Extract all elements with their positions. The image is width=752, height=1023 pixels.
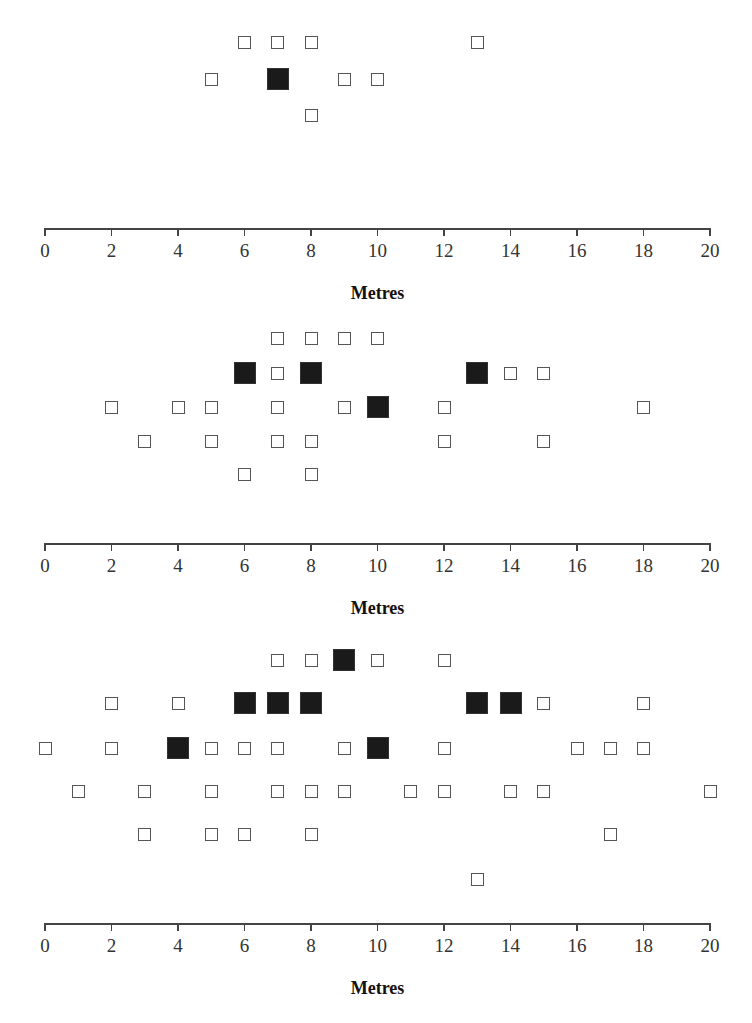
axis-tick [443, 228, 445, 236]
open-square-marker [438, 742, 451, 755]
filled-square-marker [234, 362, 256, 384]
tick-label: 14 [501, 240, 520, 262]
filled-square-marker [267, 68, 289, 90]
axis-tick [709, 923, 711, 931]
open-square-marker [271, 332, 284, 345]
open-square-marker [338, 401, 351, 414]
open-square-marker [537, 435, 550, 448]
open-square-marker [604, 828, 617, 841]
open-square-marker [305, 435, 318, 448]
open-square-marker [438, 654, 451, 667]
filled-square-marker [466, 692, 488, 714]
axis-tick [443, 543, 445, 551]
open-square-marker [338, 742, 351, 755]
open-square-marker [305, 828, 318, 841]
open-square-marker [637, 697, 650, 710]
tick-label: 12 [435, 555, 454, 577]
open-square-marker [571, 742, 584, 755]
filled-square-marker [466, 362, 488, 384]
open-square-marker [205, 401, 218, 414]
tick-label: 10 [368, 935, 387, 957]
open-square-marker [271, 785, 284, 798]
open-square-marker [105, 742, 118, 755]
open-square-marker [238, 828, 251, 841]
open-square-marker [338, 332, 351, 345]
open-square-marker [205, 785, 218, 798]
axis-tick [111, 923, 113, 931]
x-axis-title: Metres [351, 598, 405, 619]
open-square-marker [537, 785, 550, 798]
open-square-marker [105, 401, 118, 414]
axis-tick [377, 228, 379, 236]
open-square-marker [72, 785, 85, 798]
axis-tick [576, 228, 578, 236]
open-square-marker [471, 873, 484, 886]
axis-tick [44, 923, 46, 931]
open-square-marker [305, 332, 318, 345]
tick-label: 8 [306, 555, 316, 577]
open-square-marker [305, 36, 318, 49]
open-square-marker [371, 654, 384, 667]
open-square-marker [471, 36, 484, 49]
x-axis-title: Metres [351, 283, 405, 304]
open-square-marker [205, 828, 218, 841]
filled-square-marker [234, 692, 256, 714]
tick-label: 12 [435, 240, 454, 262]
filled-square-marker [300, 362, 322, 384]
axis-tick [310, 923, 312, 931]
axis-tick [44, 228, 46, 236]
tick-label: 16 [568, 240, 587, 262]
open-square-marker [338, 785, 351, 798]
axis-tick [377, 923, 379, 931]
open-square-marker [271, 654, 284, 667]
tick-label: 20 [701, 555, 720, 577]
open-square-marker [105, 697, 118, 710]
open-square-marker [205, 435, 218, 448]
open-square-marker [704, 785, 717, 798]
tick-label: 14 [501, 935, 520, 957]
open-square-marker [205, 742, 218, 755]
axis-tick [244, 228, 246, 236]
axis-tick [111, 228, 113, 236]
open-square-marker [404, 785, 417, 798]
open-square-marker [537, 697, 550, 710]
open-square-marker [305, 109, 318, 122]
filled-square-marker [300, 692, 322, 714]
tick-label: 2 [107, 935, 117, 957]
open-square-marker [537, 367, 550, 380]
open-square-marker [238, 468, 251, 481]
open-square-marker [438, 401, 451, 414]
tick-label: 18 [634, 555, 653, 577]
filled-square-marker [333, 649, 355, 671]
tick-label: 0 [40, 555, 50, 577]
open-square-marker [238, 742, 251, 755]
open-square-marker [138, 828, 151, 841]
axis-tick [244, 543, 246, 551]
open-square-marker [371, 73, 384, 86]
axis-tick [443, 923, 445, 931]
axis-tick [643, 228, 645, 236]
tick-label: 20 [701, 935, 720, 957]
axis-tick [377, 543, 379, 551]
axis-tick [510, 543, 512, 551]
axis-tick [510, 228, 512, 236]
axis-tick [643, 543, 645, 551]
open-square-marker [504, 785, 517, 798]
tick-label: 16 [568, 555, 587, 577]
open-square-marker [371, 332, 384, 345]
tick-label: 20 [701, 240, 720, 262]
axis-tick [177, 923, 179, 931]
axis-tick [643, 923, 645, 931]
x-axis-title: Metres [351, 978, 405, 999]
open-square-marker [271, 401, 284, 414]
axis-tick [310, 543, 312, 551]
tick-label: 6 [240, 240, 250, 262]
open-square-marker [238, 36, 251, 49]
axis-tick [709, 543, 711, 551]
open-square-marker [271, 742, 284, 755]
open-square-marker [438, 435, 451, 448]
axis-tick [44, 543, 46, 551]
filled-square-marker [167, 737, 189, 759]
tick-label: 0 [40, 935, 50, 957]
tick-label: 18 [634, 935, 653, 957]
